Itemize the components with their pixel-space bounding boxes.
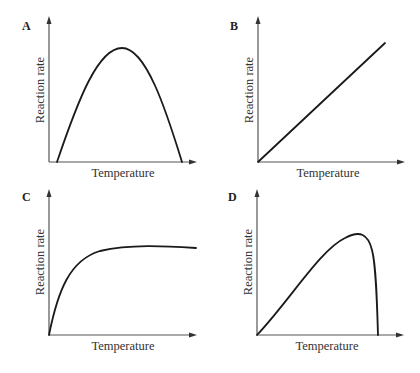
panel-label-a: A: [22, 19, 31, 33]
x-axis-arrow-icon: [189, 333, 197, 338]
x-axis-arrow-icon: [189, 160, 197, 165]
panel-d: D Temperature Reaction rate: [228, 189, 404, 353]
y-axis-label-c: Reaction rate: [33, 228, 47, 295]
y-axis-arrow-icon: [47, 16, 52, 24]
y-axis-label-a: Reaction rate: [33, 56, 47, 123]
figure: A Temperature Reaction rate B Temperatur…: [0, 0, 420, 373]
x-axis-label-b: Temperature: [297, 166, 360, 180]
curve-d: [257, 234, 378, 335]
panel-label-c: C: [22, 190, 31, 204]
panel-a: A Temperature Reaction rate: [22, 16, 197, 180]
y-axis-arrow-icon: [47, 189, 52, 197]
x-axis-label-c: Temperature: [92, 339, 155, 353]
panel-b: B Temperature Reaction rate: [230, 16, 405, 180]
panel-label-d: D: [228, 190, 237, 204]
y-axis-label-d: Reaction rate: [241, 228, 255, 295]
x-axis-arrow-icon: [397, 160, 405, 165]
x-axis-label-a: Temperature: [92, 166, 155, 180]
y-axis-arrow-icon: [255, 189, 260, 197]
x-axis-arrow-icon: [396, 333, 404, 338]
curve-c: [49, 246, 196, 335]
panel-c: C Temperature Reaction rate: [22, 189, 197, 353]
panel-label-b: B: [230, 19, 238, 33]
curve-a: [57, 48, 182, 162]
y-axis-arrow-icon: [256, 16, 261, 24]
x-axis-label-d: Temperature: [296, 339, 359, 353]
y-axis-label-b: Reaction rate: [242, 56, 256, 123]
curve-b: [258, 43, 385, 162]
